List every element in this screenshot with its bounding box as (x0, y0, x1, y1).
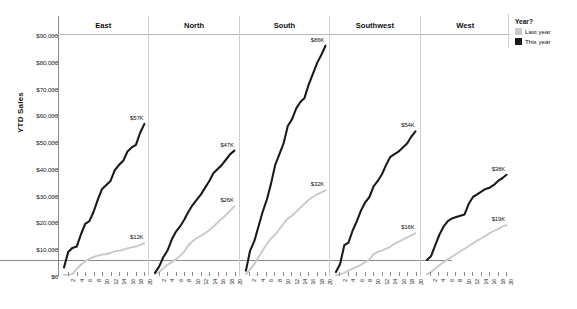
x-tick-mark (481, 272, 482, 276)
series-line-this-year (336, 131, 416, 272)
panel-header-label: Southwest (356, 21, 394, 30)
y-tick-mark (53, 169, 58, 170)
x-tick-label: 6 (359, 279, 365, 282)
x-tick-mark (68, 272, 69, 276)
x-tick-label: 12 (203, 279, 209, 285)
x-tick-label: 10 (375, 279, 381, 285)
x-tick-group-south: 2468101214161820 (239, 276, 329, 309)
x-tick-mark (365, 272, 366, 276)
x-tick-label: 10 (285, 279, 291, 285)
x-tick-mark (438, 272, 439, 276)
plot-area: EastNorthSouthSouthwestWest (58, 16, 510, 276)
x-tick-mark (226, 272, 227, 276)
x-tick-mark (407, 272, 408, 276)
x-tick-label: 6 (178, 279, 184, 282)
x-tick-label: 16 (401, 279, 407, 285)
series-line-this-year (246, 46, 326, 271)
y-tick-mark (53, 89, 58, 90)
series-line-last-year (336, 233, 416, 275)
legend-divider (508, 14, 509, 48)
series-line-last-year (64, 243, 144, 275)
legend-item-this-year[interactable]: This year (515, 38, 575, 45)
y-tick-mark (53, 249, 58, 250)
legend-item-last-year[interactable]: Last year (515, 28, 575, 35)
x-tick-label: 2 (342, 279, 348, 282)
panel-plot-southwest (330, 35, 419, 276)
x-tick-label: 10 (195, 279, 201, 285)
x-tick-mark (348, 272, 349, 276)
x-tick-mark (85, 272, 86, 276)
x-tick-label: 18 (500, 279, 506, 285)
series-end-label-last-year: $32K (311, 181, 324, 187)
x-tick-mark (144, 272, 145, 276)
x-tick-label: 20 (508, 279, 514, 285)
x-tick-mark (291, 272, 292, 276)
x-tick-mark (300, 272, 301, 276)
x-tick-mark (498, 272, 499, 276)
x-tick-label: 2 (161, 279, 167, 282)
series-line-last-year (427, 225, 507, 274)
x-tick-group-east: 2468101214161820 (58, 276, 148, 309)
x-tick-mark (218, 272, 219, 276)
x-tick-mark (94, 272, 95, 276)
panel-plot-south (240, 35, 329, 276)
series-end-label-this-year: $57K (130, 115, 143, 121)
x-tick-mark (249, 272, 250, 276)
series-end-label-this-year: $54K (401, 122, 414, 128)
x-tick-label: 14 (121, 279, 127, 285)
x-tick-mark (274, 272, 275, 276)
x-tick-label: 6 (449, 279, 455, 282)
x-tick-mark (176, 272, 177, 276)
panel-header-west: West (420, 16, 510, 35)
panel-header-row: EastNorthSouthSouthwestWest (58, 16, 510, 35)
x-tick-mark (455, 272, 456, 276)
series-end-label-this-year: $47K (220, 142, 233, 148)
x-tick-mark (416, 272, 417, 276)
panel-plot-north (149, 35, 238, 276)
x-tick-mark (192, 272, 193, 276)
x-tick-mark (167, 272, 168, 276)
y-tick-mark (53, 35, 58, 36)
x-tick-label: 18 (319, 279, 325, 285)
x-tick-mark (266, 272, 267, 276)
legend-swatch-this-year (515, 38, 522, 45)
panel-header-north: North (148, 16, 238, 35)
panel-west (420, 35, 510, 276)
x-tick-mark (325, 272, 326, 276)
panel-header-east: East (58, 16, 148, 35)
y-tick-mark (53, 222, 58, 223)
x-tick-label: 4 (260, 279, 266, 282)
x-tick-mark (111, 272, 112, 276)
x-tick-label: 8 (277, 279, 283, 282)
x-axis-tick-labels: 2468101214161820246810121416182024681012… (58, 276, 510, 309)
x-tick-mark (136, 272, 137, 276)
legend-label-last-year: Last year (525, 28, 550, 35)
panel-header-label: South (274, 21, 296, 30)
x-tick-mark (283, 272, 284, 276)
x-tick-group-southwest: 2468101214161820 (329, 276, 419, 309)
x-tick-label: 12 (294, 279, 300, 285)
y-tick-mark (53, 196, 58, 197)
series-line-last-year (155, 206, 235, 274)
x-tick-mark (317, 272, 318, 276)
x-tick-mark (356, 272, 357, 276)
x-tick-label: 14 (212, 279, 218, 285)
y-tick-mark (53, 142, 58, 143)
x-tick-mark (308, 272, 309, 276)
x-tick-mark (102, 272, 103, 276)
x-tick-mark (382, 272, 383, 276)
x-tick-mark (235, 272, 236, 276)
x-tick-mark (373, 272, 374, 276)
series-end-label-this-year: $38K (492, 166, 505, 172)
x-tick-label: 2 (251, 279, 257, 282)
panel-header-label: East (95, 21, 111, 30)
x-tick-label: 14 (483, 279, 489, 285)
series-end-label-last-year: $16K (401, 224, 414, 230)
x-tick-label: 8 (457, 279, 463, 282)
x-tick-label: 14 (302, 279, 308, 285)
panel-north (148, 35, 238, 276)
x-tick-label: 16 (220, 279, 226, 285)
x-tick-label: 14 (392, 279, 398, 285)
x-tick-mark (447, 272, 448, 276)
y-tick-mark (53, 115, 58, 116)
